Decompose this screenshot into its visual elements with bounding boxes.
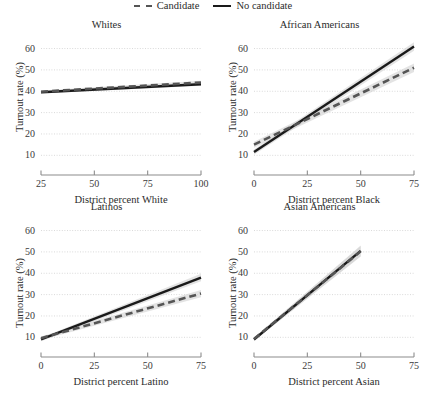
y-axis-tick-label: 50 xyxy=(238,247,248,257)
plot-area: 1020304050600255075District percent Blac… xyxy=(254,40,414,166)
plot-area: 102030405060255075100District percent Wh… xyxy=(41,40,201,166)
x-axis-tick-label: 75 xyxy=(409,179,419,189)
y-axis-tick-label: 30 xyxy=(238,108,248,118)
figure-root: Candidate No candidate Whites Turnout ra… xyxy=(0,0,426,410)
y-axis-tick-label: 60 xyxy=(238,226,248,236)
legend-label-candidate: Candidate xyxy=(157,1,200,12)
y-axis-label-wrap: Turnout rate (%) xyxy=(6,34,20,160)
y-axis-tick-label: 20 xyxy=(25,311,35,321)
panel-latinos: Latinos Turnout rate (%) 102030405060025… xyxy=(0,200,213,410)
x-axis-tick-label: 0 xyxy=(252,361,257,371)
y-axis-tick-label: 10 xyxy=(238,332,248,342)
plot-canvas xyxy=(41,40,201,166)
data-line-no-candidate xyxy=(254,46,414,152)
solid-line-icon xyxy=(213,5,231,7)
x-axis-tick-label: 100 xyxy=(194,179,209,189)
panel-title: African Americans xyxy=(213,20,426,31)
legend-item-candidate: Candidate xyxy=(134,1,200,12)
y-axis-label: Turnout rate (%) xyxy=(228,238,239,348)
x-axis-label: District percent Latino xyxy=(41,377,201,388)
x-axis-tick-label: 0 xyxy=(252,179,257,189)
y-axis-tick-label: 40 xyxy=(238,86,248,96)
plot-area: 1020304050600255075District percent Lati… xyxy=(41,222,201,348)
x-axis-tick-label: 50 xyxy=(356,179,366,189)
y-axis-tick-label: 30 xyxy=(238,290,248,300)
y-axis-tick-label: 60 xyxy=(25,44,35,54)
x-axis-tick-label: 50 xyxy=(143,361,153,371)
legend-item-no-candidate: No candidate xyxy=(213,1,292,12)
y-axis-tick-label: 30 xyxy=(25,290,35,300)
panel-title: Asian Americans xyxy=(213,202,426,213)
y-axis-label-wrap: Turnout rate (%) xyxy=(219,216,233,370)
x-axis-tick-label: 75 xyxy=(196,361,206,371)
panel-title: Whites xyxy=(0,20,213,31)
y-axis-tick-label: 50 xyxy=(238,65,248,75)
chart-legend: Candidate No candidate xyxy=(0,1,426,12)
y-axis-tick-label: 40 xyxy=(238,268,248,278)
y-axis-tick-label: 10 xyxy=(25,332,35,342)
x-axis-tick-label: 0 xyxy=(39,361,44,371)
x-axis-tick-label: 25 xyxy=(302,361,312,371)
panel-grid: Whites Turnout rate (%) 1020304050602550… xyxy=(0,18,426,410)
x-axis-tick-label: 50 xyxy=(89,179,99,189)
y-axis-label: Turnout rate (%) xyxy=(228,42,239,152)
x-axis-tick-label: 25 xyxy=(302,179,312,189)
data-line-candidate xyxy=(41,82,201,91)
y-axis-tick-label: 60 xyxy=(25,226,35,236)
plot-area: 1020304050600255075District percent Asia… xyxy=(254,222,414,348)
panel-african-americans: African Americans Turnout rate (%) 10203… xyxy=(213,18,426,200)
panel-asian-americans: Asian Americans Turnout rate (%) 1020304… xyxy=(213,200,426,410)
y-axis-tick-label: 50 xyxy=(25,247,35,257)
y-axis-tick-label: 20 xyxy=(238,311,248,321)
x-axis-label: District percent Asian xyxy=(254,377,414,388)
y-axis-tick-label: 20 xyxy=(25,129,35,139)
x-axis-tick-label: 75 xyxy=(143,179,153,189)
y-axis-label-wrap: Turnout rate (%) xyxy=(219,34,233,160)
y-axis-tick-label: 40 xyxy=(25,268,35,278)
plot-canvas xyxy=(41,222,201,348)
plot-canvas xyxy=(254,40,414,166)
y-axis-tick-label: 10 xyxy=(238,150,248,160)
y-axis-tick-label: 30 xyxy=(25,108,35,118)
x-axis-tick-label: 25 xyxy=(89,361,99,371)
y-axis-label: Turnout rate (%) xyxy=(15,42,26,152)
legend-label-no-candidate: No candidate xyxy=(236,1,292,12)
x-axis-tick-label: 50 xyxy=(356,361,366,371)
y-axis-label: Turnout rate (%) xyxy=(15,238,26,348)
plot-canvas xyxy=(254,222,414,348)
panel-whites: Whites Turnout rate (%) 1020304050602550… xyxy=(0,18,213,200)
y-axis-tick-label: 50 xyxy=(25,65,35,75)
y-axis-tick-label: 40 xyxy=(25,86,35,96)
x-axis-tick-label: 25 xyxy=(36,179,46,189)
panel-title: Latinos xyxy=(0,202,213,213)
y-axis-tick-label: 60 xyxy=(238,44,248,54)
y-axis-tick-label: 20 xyxy=(238,129,248,139)
x-axis-tick-label: 75 xyxy=(409,361,419,371)
dashed-line-icon xyxy=(134,5,152,7)
y-axis-tick-label: 10 xyxy=(25,150,35,160)
y-axis-label-wrap: Turnout rate (%) xyxy=(6,216,20,370)
